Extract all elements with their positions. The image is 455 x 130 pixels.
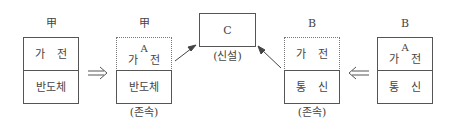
company-box-1: 가 전 반도체	[23, 37, 79, 104]
owner-label-box4: B	[284, 18, 340, 30]
caption-box-c: (신설)	[199, 51, 256, 63]
company-box-c: C	[199, 13, 256, 47]
arrow-to-c-left-icon	[175, 45, 196, 61]
company-box-2: A 가 전 반도체	[116, 37, 172, 104]
cell-text: 전	[57, 48, 67, 61]
bottom-cell: 통 신	[377, 70, 433, 104]
bottom-cell: 통 신	[284, 70, 340, 104]
sub-label: A	[140, 43, 147, 54]
cell-text: 가	[389, 53, 399, 66]
company-box-5: A 가 전 통 신	[377, 37, 433, 104]
bottom-cell: 반도체	[116, 70, 172, 104]
bottom-cell: 반도체	[23, 70, 79, 104]
cell-text: 통	[389, 81, 399, 94]
company-box-4: 가 전 통 신	[284, 37, 340, 104]
cell-text: 전	[150, 54, 160, 67]
owner-label-box1: 甲	[23, 18, 79, 30]
cell-text: 가	[296, 48, 306, 61]
caption-box4: (존속)	[284, 107, 340, 119]
cell-text: 신	[318, 81, 328, 94]
double-right-arrow-icon	[88, 67, 107, 79]
cell-text: 가	[35, 48, 45, 61]
cell-text: 전	[411, 53, 421, 66]
top-cell-dotted: A 가 전	[116, 37, 172, 71]
top-cell-dotted: 가 전	[284, 37, 340, 71]
owner-label-box5: B	[377, 18, 433, 30]
cell-text: 신	[411, 81, 421, 94]
cell-text: 가	[128, 54, 138, 67]
cell-text: 반도체	[36, 81, 66, 94]
cell-text: 전	[318, 48, 328, 61]
cell-text: 반도체	[129, 81, 159, 94]
double-left-arrow-icon	[349, 67, 369, 79]
caption-box2: (존속)	[116, 107, 172, 119]
cell-text: 통	[296, 81, 306, 94]
box-label: C	[223, 24, 231, 37]
sub-label: A	[401, 42, 408, 53]
top-cell: 가 전	[23, 37, 79, 71]
top-cell: A 가 전	[377, 37, 433, 71]
arrow-to-c-right-icon	[258, 46, 281, 68]
owner-label-box2: 甲	[116, 18, 172, 30]
